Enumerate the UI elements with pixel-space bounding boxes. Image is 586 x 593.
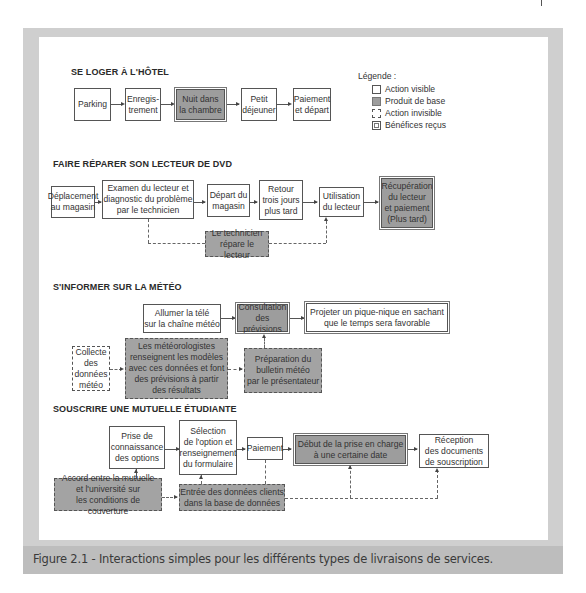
arrow-right-icon	[236, 102, 240, 106]
legend-label: Action visible	[385, 84, 435, 94]
arrow-up-icon	[348, 465, 352, 469]
swatch-visible-icon	[372, 85, 381, 94]
dashed-connector	[285, 498, 438, 499]
dashed-connector	[148, 243, 205, 244]
figure-caption-bar: Figure 2.1 - Interactions simples pour l…	[23, 546, 563, 574]
meteo-tv-box: Allumer la télé sur la chaîne météo	[143, 304, 221, 333]
dvd-pickup-box: Récupération du lecteur et paiement (Plu…	[381, 178, 433, 228]
arrow-up-icon	[134, 469, 138, 473]
hotel-payment-box: Paiement et départ	[293, 88, 331, 121]
legend-label: Action invisible	[385, 108, 442, 118]
section-title-meteo: S'INFORMER SUR LA MÉTÉO	[53, 282, 182, 292]
arrow-right-icon	[242, 447, 246, 451]
meteo-models-box: Les météorologistes renseignent les modè…	[125, 338, 228, 399]
arrow-right-icon	[202, 200, 206, 204]
arrow-right-icon	[288, 102, 292, 106]
mut-select-box: Sélection de l'option et renseignement d…	[179, 420, 237, 475]
arrow-right-icon	[254, 200, 258, 204]
arrow-right-icon	[120, 367, 124, 371]
arrow-right-icon	[174, 495, 178, 499]
meteo-bulletin-box: Préparation du bulletin météo par le pré…	[244, 348, 322, 393]
dashed-connector	[148, 219, 149, 243]
arrow-right-icon	[232, 316, 236, 320]
section-title-hotel: SE LOGER À L'HÔTEL	[71, 67, 169, 77]
swatch-core-icon	[372, 97, 381, 106]
arrow-up-icon	[262, 334, 266, 338]
page-edge-mark	[541, 0, 542, 6]
hotel-parking-box: Parking	[74, 88, 111, 121]
arrow-up-icon	[199, 475, 203, 479]
dvd-return-box: Retour trois jours plus tard	[259, 180, 303, 220]
legend-item-invisible: Action invisible	[372, 108, 442, 118]
meteo-collect-box: Collecte des données météo	[72, 346, 110, 391]
dashed-connector	[269, 243, 326, 244]
hotel-breakfast-box: Petit déjeuner	[241, 88, 277, 121]
arrow-right-icon	[301, 316, 305, 320]
dvd-travel-box: Déplacement au magasin	[51, 186, 95, 218]
mut-coverage-box: Début de la prise en charge à une certai…	[295, 435, 406, 464]
section-title-mutuelle: SOUSCRIRE UNE MUTUELLE ÉTUDIANTE	[53, 404, 237, 414]
legend-item-benefit: Bénéfices reçus	[372, 120, 446, 130]
mut-data-entry-box: Entrée des données clients dans la base …	[179, 484, 285, 511]
arrow-up-icon	[435, 468, 439, 472]
arrow-up-icon	[324, 217, 328, 221]
arrow-right-icon	[239, 367, 243, 371]
mut-payment-box: Paiement	[247, 437, 283, 460]
hotel-night-box: Nuit dans la chambre	[176, 89, 225, 120]
legend-label: Produit de base	[385, 96, 445, 106]
diagram-panel: SE LOGER À L'HÔTEL Parking Enregis- trem…	[39, 37, 548, 540]
dashed-connector	[326, 221, 327, 243]
mut-agreement-box: Accord entre la mutuelle et l'université…	[54, 478, 162, 511]
dvd-leave-box: Départ du magasin	[207, 184, 250, 217]
mut-options-box: Prise de connaissance des options	[109, 426, 165, 469]
arrow-right-icon	[375, 200, 379, 204]
meteo-forecast-box: Consultation des prévisions	[237, 304, 288, 332]
dvd-repair-box: Le technicien répare le lecteur	[205, 231, 269, 257]
legend-item-visible: Action visible	[372, 84, 435, 94]
arrow-right-icon	[414, 447, 418, 451]
figure-frame: SE LOGER À L'HÔTEL Parking Enregis- trem…	[23, 28, 563, 574]
dashed-connector	[437, 470, 438, 498]
legend-item-core: Produit de base	[372, 96, 445, 106]
arrow-right-icon	[314, 200, 318, 204]
dashed-connector	[350, 466, 351, 498]
legend-title: Légende :	[358, 71, 396, 81]
dvd-exam-box: Examen du lecteur et diagnostic du probl…	[102, 180, 194, 219]
arrow-right-icon	[288, 447, 292, 451]
swatch-invisible-icon	[372, 109, 381, 118]
swatch-benefit-icon	[372, 121, 381, 130]
hotel-checkin-box: Enregis- trement	[125, 88, 161, 121]
dashed-connector	[265, 460, 266, 484]
figure-caption: Figure 2.1 - Interactions simples pour l…	[33, 552, 493, 566]
dvd-use-box: Utilisation du lecteur	[319, 187, 364, 217]
arrow-right-icon	[171, 102, 175, 106]
mut-documents-box: Réception des documents de souscription	[419, 434, 489, 468]
section-title-dvd: FAIRE RÉPARER SON LECTEUR DE DVD	[53, 159, 232, 169]
legend-label: Bénéfices reçus	[385, 120, 446, 130]
dashed-connector	[264, 338, 265, 348]
meteo-picnic-box: Projeter un pique-nique en sachant que l…	[306, 303, 448, 332]
